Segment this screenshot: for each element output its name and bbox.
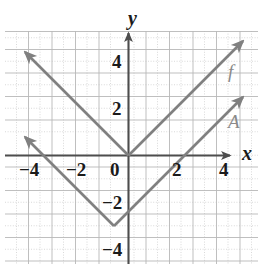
grid-minor xyxy=(5,31,258,264)
y-axis-name: y xyxy=(128,8,137,28)
x-tick-label-2: 2 xyxy=(172,160,182,179)
plot-canvas xyxy=(0,0,266,264)
x-tick-label-minus4: −4 xyxy=(19,160,39,179)
y-tick-label-4: 4 xyxy=(112,52,122,71)
grid-major xyxy=(5,31,258,264)
y-tick-label-minus2: −2 xyxy=(102,193,122,212)
graph-figure: y x −4 −2 0 2 4 4 2 −2 −4 f A xyxy=(0,0,266,264)
curve-label-f: f xyxy=(228,62,233,81)
y-tick-label-2: 2 xyxy=(112,99,122,118)
curve-label-A: A xyxy=(228,112,240,131)
x-tick-label-4: 4 xyxy=(219,160,229,179)
x-axis-name: x xyxy=(242,143,252,163)
x-tick-label-minus2: −2 xyxy=(66,160,86,179)
curve-A-left-branch xyxy=(25,137,114,226)
y-tick-label-minus4: −4 xyxy=(102,240,122,259)
x-tick-label-zero: 0 xyxy=(110,160,120,179)
